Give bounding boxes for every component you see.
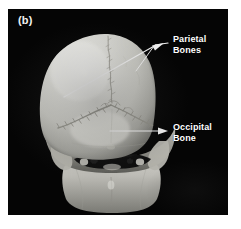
annotation-occipital-line1: Occipital [173, 122, 212, 132]
annotation-parietal-line2: Bones [173, 45, 206, 56]
cranial-vault [38, 27, 168, 167]
annotation-parietal-bones: Parietal Bones [173, 34, 206, 55]
panel-label: (b) [18, 15, 33, 26]
annotation-parietal-line1: Parietal [173, 34, 206, 44]
figure-container: (b) Parietal Bones Occipital Bone [0, 0, 241, 229]
annotation-occipital-line2: Bone [173, 133, 212, 144]
annotation-occipital-bone: Occipital Bone [173, 122, 212, 143]
